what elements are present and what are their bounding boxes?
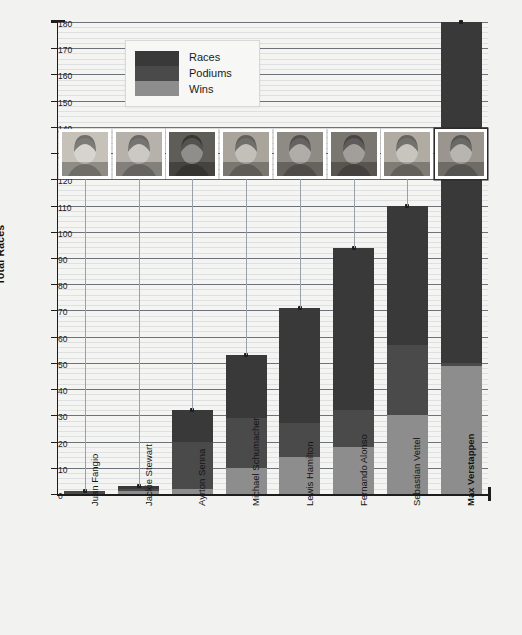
x-label-max-verstappen: Max Verstappen <box>465 434 476 506</box>
photo-connector-stem <box>354 179 355 248</box>
driver-photo[interactable] <box>328 129 380 179</box>
portrait-icon <box>62 132 108 176</box>
driver-photo[interactable] <box>220 129 272 179</box>
driver-photo[interactable] <box>435 129 487 179</box>
driver-photo[interactable] <box>166 129 218 179</box>
legend-label-wins: Wins <box>189 81 232 97</box>
plot-area <box>58 22 488 494</box>
bar-max-verstappen[interactable] <box>441 22 482 494</box>
y-tick-value: 150 <box>58 98 81 108</box>
y-tick-value: 70 <box>58 307 76 317</box>
y-tick-value: 40 <box>58 386 76 396</box>
segment-races <box>172 410 213 441</box>
portrait-icon <box>438 132 484 176</box>
x-label-ayrton-senna: Ayrton Senna <box>196 449 207 506</box>
y-tick-value: 20 <box>58 439 76 449</box>
y-tick-value: 60 <box>58 334 76 344</box>
driver-photo[interactable] <box>113 129 165 179</box>
y-tick-value: 90 <box>58 255 76 265</box>
driver-photo[interactable] <box>381 129 433 179</box>
y-tick-value: 170 <box>58 45 81 55</box>
segment-races <box>441 22 482 363</box>
legend-swatch-wins <box>135 81 179 96</box>
bar-top-cap <box>459 20 463 24</box>
legend-swatch-races <box>135 51 179 66</box>
y-tick-value: 30 <box>58 412 76 422</box>
segment-podiums <box>441 363 482 366</box>
photo-connector-stem <box>192 179 193 410</box>
x-axis-right-cap <box>488 487 491 501</box>
legend-swatch-podiums <box>135 66 179 81</box>
stacked-bar-chart: Total Races 0102030405060708090100110120… <box>0 0 522 635</box>
y-tick-value: 10 <box>58 465 76 475</box>
y-tick-value: 100 <box>58 229 81 239</box>
x-label-sebastian-vettel: Sebastian Vettel <box>411 437 422 506</box>
driver-photo[interactable] <box>59 129 111 179</box>
photo-connector-stem <box>300 179 301 308</box>
portrait-icon <box>169 132 215 176</box>
legend: RacesPodiumsWins <box>125 40 260 107</box>
bar-series-layer <box>58 22 488 494</box>
legend-label-podiums: Podiums <box>189 65 232 81</box>
y-tick-value: 160 <box>58 71 81 81</box>
photo-connector-stem <box>407 179 408 206</box>
photo-connector-stem <box>85 179 86 491</box>
y-tick-value: 0 <box>58 491 72 501</box>
segment-races <box>279 308 320 423</box>
photo-connector-stem <box>246 179 247 355</box>
y-tick-value: 180 <box>58 19 81 29</box>
x-label-michael-schumacher: Michael Schumacher <box>250 417 261 506</box>
y-tick-value: 80 <box>58 281 76 291</box>
segment-podiums <box>387 345 428 416</box>
segment-races <box>226 355 267 418</box>
portrait-icon <box>223 132 269 176</box>
y-tick-value: 110 <box>58 203 81 213</box>
legend-label-races: Races <box>189 49 232 65</box>
legend-color-swatch <box>135 51 179 96</box>
segment-races <box>333 248 374 411</box>
photo-connector-stem <box>139 179 140 486</box>
driver-photo[interactable] <box>274 129 326 179</box>
x-label-juan-fangio: Juan Fangio <box>89 454 100 506</box>
portrait-icon <box>331 132 377 176</box>
portrait-icon <box>277 132 323 176</box>
y-tick-value: 50 <box>58 360 76 370</box>
x-label-jackie-stewart: Jackie Stewart <box>143 444 154 506</box>
legend-entries: RacesPodiumsWins <box>189 49 232 97</box>
portrait-icon <box>116 132 162 176</box>
x-label-fernando-alonso: Fernando Alonso <box>358 434 369 506</box>
y-axis-title: Total Races <box>0 225 6 285</box>
x-label-lewis-hamilton: Lewis Hamilton <box>304 442 315 506</box>
segment-races <box>387 206 428 345</box>
portrait-icon <box>384 132 430 176</box>
